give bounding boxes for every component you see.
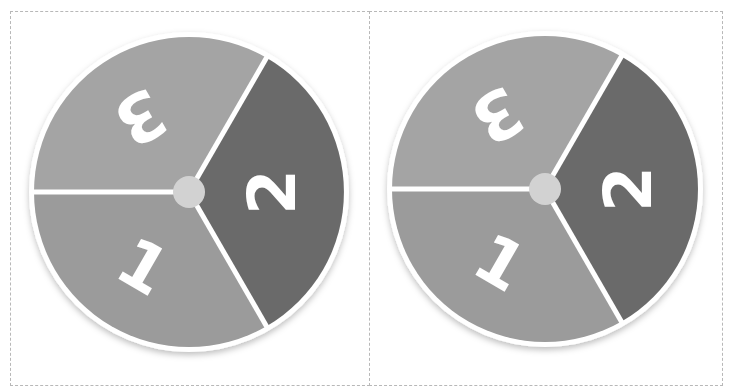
segment-label-2: 2 xyxy=(234,169,311,215)
spinner-hub xyxy=(173,176,205,208)
segment-label-2: 2 xyxy=(590,166,667,212)
spinner-left: 3 2 1 xyxy=(29,32,349,352)
spinner-hub xyxy=(529,173,561,205)
spinners-canvas: 3 2 1 3 2 1 xyxy=(0,0,730,386)
spinner-right: 3 2 1 xyxy=(387,31,703,347)
